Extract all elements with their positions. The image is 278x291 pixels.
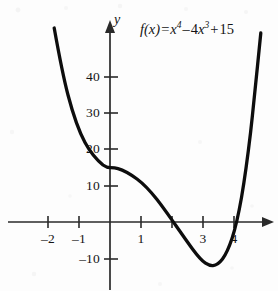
equation-equals: =: [160, 21, 170, 37]
equation-title: f(x)=x4–4x3+15: [140, 21, 234, 38]
y-tick-label-40: 40: [86, 70, 100, 84]
equation-arg: (x): [144, 21, 160, 37]
equation-term2-coefficient: 4: [191, 21, 198, 37]
equation-constant: 15: [219, 21, 234, 37]
y-tick-label-30: 30: [86, 106, 100, 120]
y-axis-label: y: [114, 12, 120, 28]
x-tick-label-4: 4: [231, 232, 238, 246]
y-tick-label-20: 20: [86, 142, 100, 156]
x-tick-label--2: –2: [41, 232, 55, 246]
x-axis-arrow-icon: [262, 217, 274, 227]
x-tick-label--1: –1: [72, 232, 86, 246]
y-tick-label-10: 10: [86, 179, 100, 193]
equation-minus: –: [182, 21, 191, 37]
y-tick-label--10: –10: [79, 252, 100, 266]
equation-plus: +: [209, 21, 219, 37]
x-tick-label-3: 3: [200, 232, 207, 246]
x-tick-label-1: 1: [138, 232, 145, 246]
plot-canvas: [0, 0, 278, 291]
function-graph-figure: y f(x)=x4–4x3+15 –2 –1 1 3 4 40 30 20 10…: [0, 0, 278, 291]
equation-term1-exponent: 4: [177, 20, 182, 30]
